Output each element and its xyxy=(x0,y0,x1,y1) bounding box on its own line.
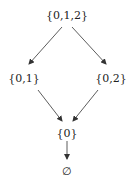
edge-left-mid xyxy=(38,90,62,121)
hasse-diagram: {0,1,2} {0,1} {0,2} {0} ∅ xyxy=(0,0,134,186)
edges-layer xyxy=(0,0,134,186)
node-top: {0,1,2} xyxy=(46,10,88,21)
edge-top-left xyxy=(29,27,62,64)
edge-right-mid xyxy=(73,90,98,121)
node-left: {0,1} xyxy=(8,73,40,84)
node-bottom: ∅ xyxy=(62,166,72,177)
node-right: {0,2} xyxy=(95,73,127,84)
edge-top-right xyxy=(72,27,106,64)
node-mid: {0} xyxy=(57,128,78,139)
